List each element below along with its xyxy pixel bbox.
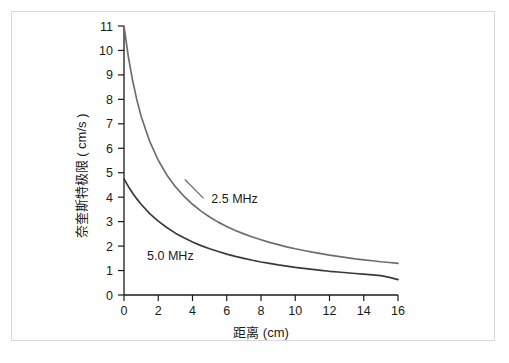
y-tick-label: 7 (106, 117, 113, 131)
series-label-2-5-mhz: 2.5 MHz (211, 192, 258, 206)
y-tick-label: 11 (100, 20, 113, 34)
y-tick-label: 2 (106, 240, 113, 254)
annotation-leader-lines (185, 180, 204, 199)
chart-canvas: 01234567891011 0246810121416 2.5 MHz5.0 … (0, 0, 509, 363)
series-labels-group: 2.5 MHz5.0 MHz (147, 192, 258, 263)
x-tick-label: 8 (258, 304, 265, 318)
leader-line-2.5mhz (185, 180, 204, 199)
y-tick-label: 1 (106, 264, 113, 278)
x-tick-label: 0 (121, 304, 128, 318)
x-tick-label: 16 (391, 304, 405, 318)
y-tick-label: 5 (106, 166, 113, 180)
x-tick-label: 2 (155, 304, 162, 318)
y-tick-label: 10 (99, 44, 113, 58)
figure-container: 01234567891011 0246810121416 2.5 MHz5.0 … (0, 0, 509, 363)
data-series-group (124, 26, 398, 280)
x-tick-label: 4 (189, 304, 196, 318)
x-tick-label: 12 (323, 304, 337, 318)
y-axis-title: 奈奎斯特极限 ( cm/s ) (74, 114, 89, 239)
series-curve-5-0-mhz (124, 179, 398, 280)
x-tick-label: 10 (288, 304, 302, 318)
series-curve-2-5-mhz (124, 26, 398, 263)
x-axis-tick-labels: 0246810121416 (121, 304, 405, 318)
x-tick-label: 14 (357, 304, 371, 318)
series-label-5-0-mhz: 5.0 MHz (147, 249, 194, 263)
y-axis-tick-labels: 01234567891011 (99, 20, 113, 303)
x-axis-ticks (124, 295, 398, 301)
y-tick-label: 3 (106, 215, 113, 229)
y-tick-label: 8 (106, 93, 113, 107)
y-tick-label: 4 (106, 191, 113, 205)
y-axis-ticks (118, 26, 124, 295)
x-tick-label: 6 (223, 304, 230, 318)
y-tick-label: 9 (106, 68, 113, 82)
y-tick-label: 6 (106, 142, 113, 156)
y-tick-label: 0 (106, 289, 113, 303)
x-axis-title: 距离 (cm) (233, 325, 289, 340)
